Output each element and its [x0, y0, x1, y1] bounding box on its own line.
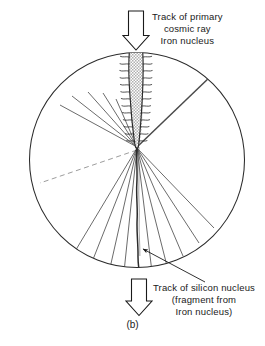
primary-track-label: Track of primary cosmic ray Iron nucleus	[152, 11, 223, 48]
secondary-track-label-line1: Track of silicon nucleus	[153, 282, 255, 294]
figure-caption: (b)	[0, 319, 265, 330]
silicon-nucleus-track-shadow	[139, 147, 140, 256]
secondary-track-label-line3: Iron nucleus)	[153, 306, 255, 318]
primary-track-label-line3: Iron nucleus	[152, 35, 223, 47]
backward-secondary-tracks	[60, 92, 137, 147]
secondary-track-leader-line	[143, 249, 205, 282]
secondary-track-label: Track of silicon nucleus (fragment from …	[153, 282, 255, 319]
down-arrow-primary	[123, 11, 149, 50]
primary-track-label-line1: Track of primary	[152, 11, 223, 23]
primary-track-label-line2: cosmic ray	[152, 23, 223, 35]
dashed-secondary-track	[40, 150, 137, 183]
secondary-track-label-line2: (fragment from	[153, 294, 255, 306]
prominent-secondary-track	[137, 75, 212, 147]
cosmic-ray-track-figure: Track of primary cosmic ray Iron nucleus…	[0, 0, 265, 346]
down-arrow-secondary	[126, 279, 152, 316]
forward-secondary-track-fan	[74, 148, 214, 272]
